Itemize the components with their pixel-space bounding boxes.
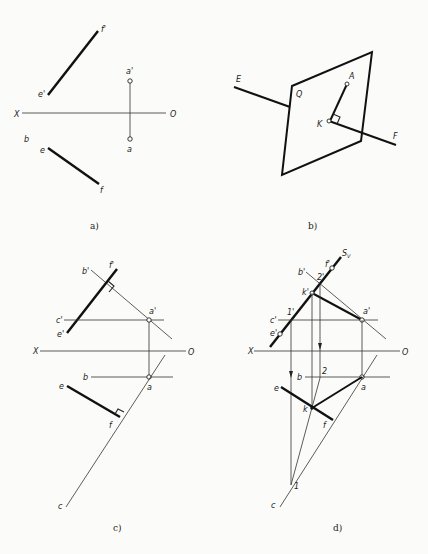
line-k-a xyxy=(312,377,362,408)
label-o: O xyxy=(188,348,194,357)
label-b: b xyxy=(297,373,302,382)
label-a-prime: a' xyxy=(149,307,156,316)
label-2: 2 xyxy=(322,367,327,376)
plane-q xyxy=(282,52,372,175)
label-f: f xyxy=(100,186,104,195)
label-o: O xyxy=(170,110,176,119)
label-a-prime: a' xyxy=(126,67,133,76)
label-a: a xyxy=(147,383,152,392)
label-x: X xyxy=(247,347,254,356)
label-c: c xyxy=(58,502,63,511)
point-k xyxy=(327,119,331,123)
label-e-prime: e' xyxy=(270,329,277,338)
right-angle-mark-top xyxy=(115,409,124,414)
label-1-prime: 1' xyxy=(287,308,294,317)
label-f: f xyxy=(109,421,113,430)
label-x: X xyxy=(32,347,39,356)
caption-a: a) xyxy=(90,221,99,231)
label-e: E xyxy=(236,75,242,84)
label-e-prime: e' xyxy=(38,90,45,99)
projection-diagram: f' e' a' X O b e a f a) E Q A K F b) xyxy=(0,0,428,554)
label-e-prime: e' xyxy=(57,330,64,339)
line-ef-left xyxy=(234,87,290,107)
label-x: X xyxy=(13,110,20,119)
panel-b: E Q A K F b) xyxy=(234,52,398,231)
label-q: Q xyxy=(296,90,302,99)
point-a xyxy=(128,137,132,141)
label-b: b xyxy=(24,135,29,144)
label-a-prime: a' xyxy=(363,307,370,316)
label-a: a xyxy=(127,145,132,154)
point-a-prime xyxy=(147,318,151,322)
label-k: K xyxy=(317,120,323,129)
panel-a: f' e' a' X O b e a f a) xyxy=(13,25,176,231)
point-e-prime xyxy=(278,332,282,336)
label-f-prime: f' xyxy=(101,25,106,34)
point-f-prime xyxy=(330,266,334,270)
caption-c: c) xyxy=(113,523,122,533)
label-c: c xyxy=(271,501,276,510)
label-f-prime: f' xyxy=(109,261,114,270)
panel-c: b' f' a' c' e' X O b a e f c c) xyxy=(32,261,194,533)
line-ak xyxy=(330,84,347,121)
label-b: b xyxy=(83,373,88,382)
label-e: e xyxy=(40,146,45,155)
point-a-prime xyxy=(128,79,132,83)
label-sv: SV xyxy=(342,249,351,259)
label-f: f xyxy=(323,421,327,430)
panel-d: SV b' 2' f' k' 1' c' e' a' X O b 2 e a k… xyxy=(247,249,408,533)
label-a: a xyxy=(361,383,366,392)
label-e: e xyxy=(59,382,64,391)
line-ac xyxy=(66,355,165,507)
label-e: e xyxy=(274,384,279,393)
label-o: O xyxy=(402,348,408,357)
label-k: k xyxy=(303,405,308,414)
caption-b: b) xyxy=(308,221,317,231)
point-k xyxy=(310,406,314,410)
line-k-prime-a-prime xyxy=(312,293,362,320)
label-c-prime: c' xyxy=(270,316,277,325)
label-2-prime: 2' xyxy=(317,273,324,282)
caption-d: d) xyxy=(333,523,342,533)
line-b-prime-a-prime xyxy=(91,270,172,339)
line-ef-top-view xyxy=(48,148,99,184)
line-2-1 xyxy=(291,378,320,485)
line-ef-front-view xyxy=(67,269,117,333)
label-f-prime: f' xyxy=(325,260,330,269)
label-b-prime: b' xyxy=(82,267,89,276)
label-c-prime: c' xyxy=(56,316,63,325)
label-b-prime: b' xyxy=(298,268,305,277)
label-a: A xyxy=(348,72,354,81)
right-angle-mark-front xyxy=(108,281,114,292)
line-b-prime-a-prime xyxy=(306,272,386,339)
label-k-prime: k' xyxy=(302,288,309,297)
label-f: F xyxy=(393,132,398,141)
arrow-2-down-icon xyxy=(318,343,322,350)
line-ef-top-view xyxy=(67,386,120,417)
arrow-1-down-icon xyxy=(289,371,293,378)
point-a xyxy=(345,82,349,86)
line-ef-top-view xyxy=(281,387,333,420)
line-ef-front-view xyxy=(48,31,98,95)
label-1: 1 xyxy=(294,482,299,491)
